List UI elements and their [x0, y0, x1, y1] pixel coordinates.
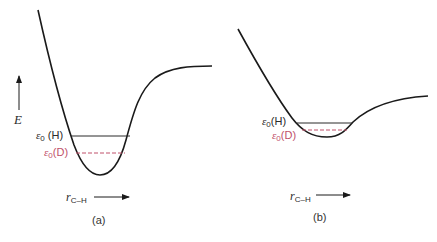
panel-caption-a: (a)	[92, 215, 105, 226]
level-name: (D)	[53, 146, 68, 158]
level-d-label-b: ε0(D)	[272, 130, 296, 141]
subscript: 0	[48, 151, 52, 160]
subscript: 0	[266, 120, 270, 129]
bond-subscript: C–H	[71, 196, 87, 205]
distance-axis-label-b: rC–H	[290, 190, 311, 202]
level-name: (H)	[271, 115, 286, 127]
panel-caption-b: (b)	[313, 212, 326, 223]
potential-energy-diagram	[0, 0, 437, 242]
r-symbol: r	[290, 189, 295, 203]
subscript: 0	[40, 134, 44, 143]
energy-axis-label: E	[14, 113, 22, 126]
bond-subscript: C–H	[295, 195, 311, 204]
panel-b	[238, 29, 428, 195]
panel-a	[19, 10, 212, 197]
level-name: (D)	[281, 129, 296, 141]
level-h-label-a: ε0 (H)	[36, 130, 63, 141]
level-d-label-a: ε0(D)	[44, 147, 68, 158]
subscript: 0	[276, 134, 280, 143]
level-h-label-b: ε0(H)	[262, 116, 286, 127]
r-symbol: r	[66, 190, 71, 204]
distance-axis-label-a: rC–H	[66, 191, 87, 203]
level-name: (H)	[48, 129, 63, 141]
